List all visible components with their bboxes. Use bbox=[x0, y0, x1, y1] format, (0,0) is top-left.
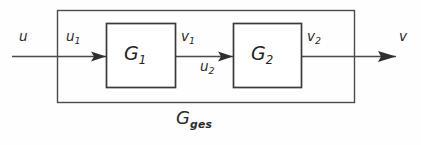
signal-label-u1: u1 bbox=[66, 30, 81, 44]
signal-label-v2: v2 bbox=[307, 30, 321, 44]
block-diagram-canvas: u u1 v1 u2 v2 v G1 G2 Gges bbox=[0, 0, 421, 145]
block-label-g2: G2 bbox=[251, 44, 273, 63]
signal-label-u: u bbox=[19, 30, 28, 44]
signal-label-v: v bbox=[399, 30, 407, 44]
outer-block-label-gges: Gges bbox=[176, 109, 212, 127]
signal-label-u2: u2 bbox=[200, 60, 215, 74]
signal-label-v1: v1 bbox=[181, 30, 195, 44]
block-label-g1: G1 bbox=[124, 44, 146, 63]
